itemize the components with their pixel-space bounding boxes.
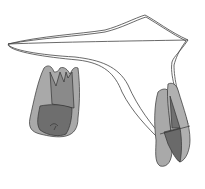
left-tooth [29,66,79,137]
figure-canvas [0,0,205,189]
right-tooth [155,83,190,166]
dental-diagram [0,0,205,189]
